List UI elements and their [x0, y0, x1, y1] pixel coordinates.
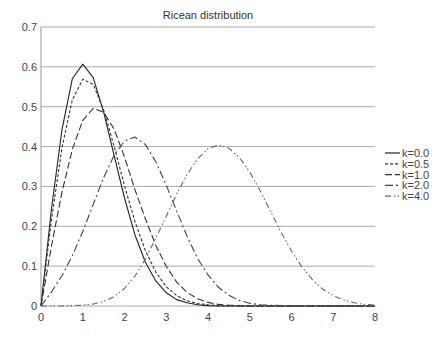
chart-title: Ricean distribution — [163, 9, 254, 21]
series-k-0-0 — [41, 64, 375, 306]
series-k-2-0 — [41, 137, 375, 306]
x-tick-label: 1 — [80, 311, 86, 323]
x-tick-label: 5 — [247, 311, 253, 323]
series-k-1-0 — [41, 108, 375, 306]
x-tick-label: 2 — [121, 311, 127, 323]
x-tick-label: 8 — [372, 311, 378, 323]
y-tick-label: 0.2 — [22, 220, 37, 232]
x-axis-ticks: 012345678 — [38, 311, 378, 323]
y-tick-label: 0.7 — [22, 21, 37, 33]
y-tick-label: 0.6 — [22, 61, 37, 73]
y-axis-ticks: 00.10.20.30.40.50.60.7 — [22, 21, 37, 312]
x-tick-label: 3 — [163, 311, 169, 323]
y-tick-label: 0.4 — [22, 141, 37, 153]
legend-label: k=4.0 — [402, 190, 429, 202]
x-tick-label: 4 — [205, 311, 211, 323]
y-tick-label: 0.3 — [22, 180, 37, 192]
x-tick-label: 0 — [38, 311, 44, 323]
y-tick-label: 0.5 — [22, 101, 37, 113]
x-tick-label: 6 — [288, 311, 294, 323]
x-tick-label: 7 — [330, 311, 336, 323]
series-k-4-0 — [41, 145, 375, 306]
y-tick-label: 0 — [31, 300, 37, 312]
legend: k=0.0k=0.5k=1.0k=2.0k=4.0 — [385, 147, 429, 202]
gridlines — [41, 27, 375, 306]
plot-area — [41, 64, 375, 306]
y-tick-label: 0.1 — [22, 260, 37, 272]
ricean-distribution-chart: Ricean distribution 00.10.20.30.40.50.60… — [0, 0, 447, 341]
series-k-0-5 — [41, 79, 375, 306]
